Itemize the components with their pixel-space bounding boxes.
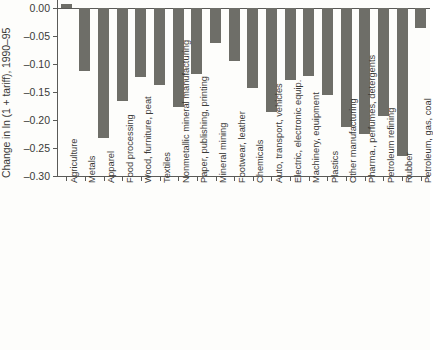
x-axis-tick-label: Agriculture [70,139,79,183]
bar [154,8,165,85]
x-axis-tick-label: Paper, publishing, printing [200,76,209,183]
x-axis-tick-label: Nonmetallic mineral manufacturing [182,40,191,183]
y-axis-tick-label: –0.05 [24,31,50,41]
y-axis-tick-mark [53,8,57,9]
bar [322,8,333,95]
bar [210,8,221,43]
x-axis-tick-label: Pharma., perfumes, detergents [368,55,377,183]
bar [191,8,202,74]
x-axis-tick-mark [197,176,198,181]
x-axis-tick-labels: AgricultureMetalsApparelFood processingW… [57,183,430,350]
bar [378,8,389,116]
y-axis-tick-mark [53,148,57,149]
x-axis-tick-label: Petroleum, gas, coal [424,98,433,183]
x-axis-tick-label: Wood, furniture, peat [144,96,153,183]
y-axis-tick-mark [53,64,57,65]
x-axis-tick-mark [253,176,254,181]
bar [247,8,258,88]
x-axis-tick-mark [160,176,161,181]
y-axis-tick-label: 0.00 [30,3,50,13]
x-axis-tick-label: Other manufacturing [349,98,358,183]
x-axis-tick-mark [104,176,105,181]
y-axis-tick-mark [53,120,57,121]
x-axis-tick-mark [271,176,272,181]
x-axis-tick-mark [290,176,291,181]
x-axis-tick-label: Petroleum refining [387,108,396,183]
bar [229,8,240,61]
y-axis-tick-label: –0.25 [24,143,50,153]
bar [61,4,72,8]
zero-baseline [57,8,430,9]
x-axis-tick-label: Plastics [331,151,340,183]
x-axis-tick-mark [383,176,384,181]
y-axis-tick-labels: 0.00–0.05–0.10–0.15–0.20–0.25–0.30 [16,0,54,185]
bar [98,8,109,138]
x-axis-tick-mark [327,176,328,181]
y-axis-line [57,0,58,176]
x-axis-tick-mark [122,176,123,181]
bar [135,8,146,77]
y-axis-tick-label: –0.20 [24,115,50,125]
bar [303,8,314,76]
x-axis-tick-mark [346,176,347,181]
bar [117,8,128,101]
x-axis-tick-label: Machinery, equipment [312,92,321,183]
x-axis-tick-label: Footwear, leather [238,111,247,183]
x-axis-tick-mark [178,176,179,181]
x-axis-tick-label: Rubber [405,153,414,184]
y-axis-tick-label: –0.10 [24,59,50,69]
y-axis-tick-label: –0.30 [24,171,50,181]
x-axis-tick-mark [66,176,67,181]
x-axis-tick-label: Apparel [107,151,116,183]
bar [397,8,408,156]
x-axis-tick-mark [365,176,366,181]
y-axis-tick-mark [53,36,57,37]
x-axis-tick-mark [85,176,86,181]
x-axis-tick-mark [216,176,217,181]
x-axis-tick-label: Auto, transport, vehicles [275,83,284,183]
x-axis-tick-mark [234,176,235,181]
bar [79,8,90,71]
bar [285,8,296,80]
bar [415,8,426,28]
x-axis-tick-mark [421,176,422,181]
x-axis-tick-mark [402,176,403,181]
y-axis-tick-mark [53,92,57,93]
x-axis-tick-label: Metals [88,156,97,183]
x-axis-tick-label: Mineral mining [219,123,228,183]
x-axis-tick-label: Textiles [163,152,172,183]
x-axis-tick-label: Chemicals [256,140,265,183]
x-axis-tick-mark [309,176,310,181]
x-axis-tick-mark [141,176,142,181]
y-axis-tick-label: –0.15 [24,87,50,97]
x-axis-tick-label: Electric, electronic equip. [294,80,303,183]
y-axis-label: Change in ln (1 + tariff), 1990–95 [0,28,12,178]
x-axis-tick-label: Food processing [126,114,135,183]
